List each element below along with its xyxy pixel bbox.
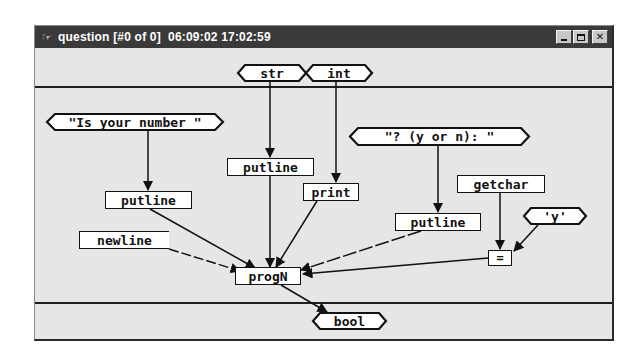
constant-y-or-n[interactable]: "? (y or n): " — [349, 127, 530, 146]
node-label: newline — [97, 234, 152, 247]
edge-y-equals — [514, 225, 538, 251]
constant-is-your-number[interactable]: "Is your number " — [46, 113, 224, 131]
edge-putlineright-progn — [301, 231, 421, 270]
input-port-label: int — [305, 64, 373, 82]
node-label: progN — [248, 270, 287, 283]
node-label: putline — [243, 161, 298, 174]
constant-label: 'y' — [523, 207, 587, 225]
input-port-str[interactable]: str — [237, 64, 307, 82]
node-putline-top[interactable]: putline — [227, 158, 314, 176]
constant-label: "? (y or n): " — [349, 127, 530, 146]
node-label: getchar — [474, 178, 529, 191]
edge-progn-bool — [281, 285, 327, 312]
input-port-label: str — [237, 64, 307, 82]
node-label: = — [496, 252, 503, 264]
node-print[interactable]: print — [303, 183, 359, 201]
graph-editor-window: ☞ question [#0 of 0] 06:09:02 17:02:59 ✕ — [34, 25, 614, 341]
input-port-int[interactable]: int — [305, 64, 373, 82]
node-getchar[interactable]: getchar — [457, 175, 545, 193]
edge-newline-progn — [169, 249, 240, 271]
node-putline-left[interactable]: putline — [105, 191, 192, 209]
node-label: print — [311, 186, 350, 199]
node-putline-right[interactable]: putline — [395, 213, 481, 231]
node-label: putline — [121, 194, 176, 207]
output-port-bool[interactable]: bool — [312, 312, 387, 330]
constant-label: "Is your number " — [46, 113, 224, 131]
edge-print-progn — [276, 201, 317, 267]
node-equals[interactable]: = — [488, 250, 512, 266]
node-newline[interactable]: newline — [79, 231, 169, 249]
constant-y-char[interactable]: 'y' — [523, 207, 587, 225]
node-label: putline — [411, 216, 466, 229]
output-port-label: bool — [312, 312, 387, 330]
node-progn[interactable]: progN — [235, 267, 301, 285]
